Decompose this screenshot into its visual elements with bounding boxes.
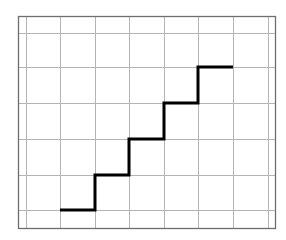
staircase-line (60, 67, 233, 210)
staircase-diagram (0, 0, 286, 240)
grid-canvas (0, 0, 286, 240)
grid-lines (18, 16, 275, 228)
outer-frame (19, 17, 276, 229)
